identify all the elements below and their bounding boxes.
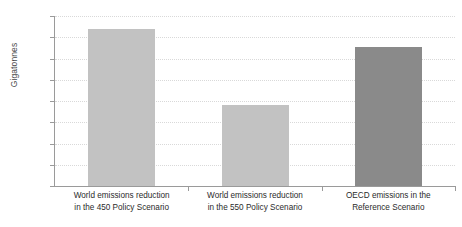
y-axis-tick bbox=[50, 59, 55, 60]
bar bbox=[222, 105, 289, 186]
category-label-line: World emissions reduction bbox=[55, 190, 188, 202]
y-axis-title: Gigatonnes bbox=[9, 25, 19, 105]
x-axis-tick bbox=[455, 186, 456, 191]
y-axis-tick bbox=[50, 144, 55, 145]
bar-chart: Gigatonnes 0246810121416 World emissions… bbox=[0, 0, 462, 227]
y-axis-tick bbox=[50, 80, 55, 81]
category-label-line: Reference Scenario bbox=[322, 202, 455, 214]
y-axis-tick bbox=[50, 16, 55, 17]
y-axis-tick bbox=[50, 37, 55, 38]
plot-area: 0246810121416 bbox=[55, 16, 455, 186]
category-label-line: World emissions reduction bbox=[188, 190, 321, 202]
y-axis-tick bbox=[50, 122, 55, 123]
y-axis-tick bbox=[50, 165, 55, 166]
bar bbox=[88, 29, 155, 186]
x-axis-line bbox=[55, 186, 455, 187]
category-label: World emissions reductionin the 450 Poli… bbox=[55, 190, 188, 213]
category-label: OECD emissions in theReference Scenario bbox=[322, 190, 455, 213]
category-label-line: in the 450 Policy Scenario bbox=[55, 202, 188, 214]
category-label: World emissions reductionin the 550 Poli… bbox=[188, 190, 321, 213]
category-label-line: in the 550 Policy Scenario bbox=[188, 202, 321, 214]
gridline bbox=[55, 16, 455, 17]
category-label-line: OECD emissions in the bbox=[322, 190, 455, 202]
y-axis-tick bbox=[50, 186, 55, 187]
category-labels: World emissions reductionin the 450 Poli… bbox=[55, 190, 455, 226]
bar bbox=[355, 47, 422, 186]
y-axis-tick bbox=[50, 101, 55, 102]
